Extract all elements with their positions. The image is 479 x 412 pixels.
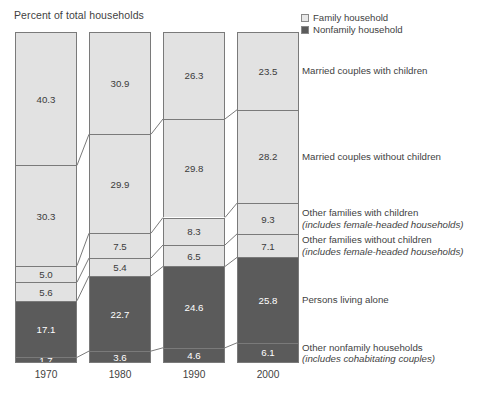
bar-segment-value: 6.1 (261, 347, 274, 358)
bar-column-1990: 26.329.88.36.524.64.6 (163, 32, 225, 363)
bar-segment-value: 28.2 (259, 151, 278, 162)
bar-segment[interactable]: 29.8 (163, 119, 225, 218)
bar-segment[interactable]: 4.6 (163, 348, 225, 363)
bar-segment-value: 3.6 (113, 352, 126, 363)
bar-segment-value: 7.5 (113, 241, 126, 252)
category-label-title: Other families without children (302, 234, 432, 245)
category-label-title: Other families with children (302, 207, 418, 218)
bar-segment[interactable]: 24.6 (163, 266, 225, 347)
category-label: Married couples with children (302, 65, 427, 76)
bar-segment[interactable]: 17.1 (15, 301, 77, 358)
bar-segment-value: 30.9 (111, 78, 130, 89)
bar-segment-value: 1.7 (39, 357, 52, 363)
bar-column-1980: 30.929.97.55.422.73.6 (89, 32, 151, 363)
bar-segment[interactable]: 30.3 (15, 165, 77, 265)
bar-segment-value: 29.9 (111, 179, 130, 190)
bar-segment-value: 30.3 (37, 211, 56, 222)
category-label-subtitle: (includes female-headed households) (302, 219, 464, 230)
bar-segment-value: 8.3 (187, 226, 200, 237)
bar-segment[interactable]: 7.5 (89, 233, 151, 258)
bar-segment[interactable]: 6.5 (163, 245, 225, 266)
bar-segment-value: 5.6 (39, 287, 52, 298)
category-label: Married couples without children (302, 151, 441, 162)
category-label-title: Married couples with children (302, 65, 427, 76)
bar-segment[interactable]: 26.3 (163, 32, 225, 119)
bar-segment[interactable]: 40.3 (15, 32, 77, 165)
bar-segment-value: 23.5 (259, 66, 278, 77)
bar-segment[interactable]: 5.6 (15, 282, 77, 301)
bar-segment-value: 25.8 (259, 295, 278, 306)
bar-segment[interactable]: 28.2 (237, 110, 299, 203)
bar-segment[interactable]: 25.8 (237, 257, 299, 342)
bar-segment-value: 5.4 (113, 262, 126, 273)
x-axis-tick-label: 1990 (163, 369, 225, 380)
bar-segment-value: 24.6 (185, 302, 204, 313)
bar-column-1970: 40.330.35.05.617.11.7 (15, 32, 77, 363)
x-axis-tick-label: 1980 (89, 369, 151, 380)
bar-segment-value: 17.1 (37, 324, 56, 335)
bar-column-2000: 23.528.29.37.125.86.1 (237, 32, 299, 363)
bar-segment[interactable]: 29.9 (89, 134, 151, 233)
bar-segment-value: 6.5 (187, 251, 200, 262)
category-label: Persons living alone (302, 294, 389, 305)
bar-segment-value: 7.1 (261, 241, 274, 252)
bar-segment-value: 9.3 (261, 214, 274, 225)
bar-segment-value: 26.3 (185, 70, 204, 81)
bar-segment[interactable]: 9.3 (237, 203, 299, 234)
category-label-subtitle: (includes cohabitating couples) (302, 353, 435, 364)
x-axis-tick-label: 2000 (237, 369, 299, 380)
bar-segment-value: 22.7 (111, 309, 130, 320)
category-label-title: Persons living alone (302, 294, 389, 305)
bar-segment[interactable]: 1.7 (15, 357, 77, 363)
chart-root: Percent of total households Family house… (0, 0, 479, 412)
bar-segment[interactable]: 22.7 (89, 276, 151, 351)
bar-segment-value: 29.8 (185, 163, 204, 174)
category-label: Other families without children(includes… (302, 234, 464, 257)
category-label-subtitle: (includes female-headed households) (302, 246, 464, 257)
bar-segment[interactable]: 3.6 (89, 351, 151, 363)
bar-segment[interactable]: 7.1 (237, 234, 299, 258)
category-label: Other nonfamily households(includes coha… (302, 342, 435, 365)
bar-segment[interactable]: 23.5 (237, 32, 299, 110)
bar-segment[interactable]: 8.3 (163, 218, 225, 245)
bar-segment[interactable]: 5.0 (15, 266, 77, 283)
x-axis-tick-label: 1970 (15, 369, 77, 380)
category-label-title: Other nonfamily households (302, 342, 423, 353)
bar-segment[interactable]: 30.9 (89, 32, 151, 134)
bar-segment-value: 40.3 (37, 94, 56, 105)
bar-segment[interactable]: 6.1 (237, 343, 299, 363)
bar-segment[interactable]: 5.4 (89, 258, 151, 276)
category-label-title: Married couples without children (302, 151, 441, 162)
bar-segment-value: 4.6 (187, 350, 200, 361)
category-label: Other families with children(includes fe… (302, 207, 464, 230)
bar-segment-value: 5.0 (39, 269, 52, 280)
